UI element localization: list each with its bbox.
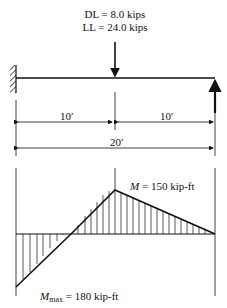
total-span-label: 20′ [110,136,123,148]
fixed-support-icon [10,65,16,93]
moment-diagram [16,190,215,287]
max-moment-label: Mmax = 180 kip-ft [40,290,118,306]
right-span-label: 10′ [160,110,173,122]
beam-diagram [0,0,227,308]
left-span-label: 10′ [60,110,73,122]
positive-moment-label: M = 150 kip-ft [130,180,195,192]
dead-load-label: DL = 8.0 kips [0,8,227,20]
live-load-label: LL = 24.0 kips [0,21,227,33]
moment-curve [16,190,215,287]
extension-lines [16,92,215,296]
